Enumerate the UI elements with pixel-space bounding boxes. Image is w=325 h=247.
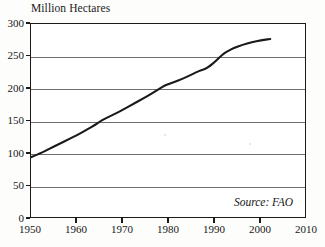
y-tick-label-200: 200 [0,83,24,94]
plot-area: Source: FAO [30,23,306,218]
y-tick-label-100: 100 [0,148,24,159]
data-line-irrigated-area [31,24,305,217]
x-tick-label-1990: 1990 [194,224,234,235]
y-tick-label-150: 150 [0,115,24,126]
y-tick-label-50: 50 [0,180,24,191]
x-tick-label-1970: 1970 [102,224,142,235]
x-tick-mark-2000 [259,218,260,223]
source-note: Source: FAO [234,196,293,208]
series-path-0 [31,39,270,157]
y-tick-label-250: 250 [0,50,24,61]
x-tick-label-1960: 1960 [56,224,96,235]
x-tick-label-1950: 1950 [10,224,50,235]
x-tick-mark-1990 [213,218,214,223]
x-tick-mark-1960 [75,218,76,223]
y-tick-label-0: 0 [0,213,24,224]
chart-figure: Million Hectares 050100150200250300 Sour… [0,0,325,247]
x-tick-label-2000: 2000 [240,224,280,235]
plot-inner [31,24,305,217]
x-tick-mark-1980 [167,218,168,223]
x-tick-label-2010: 2010 [286,224,325,235]
chart-axis-title: Million Hectares [31,2,110,14]
x-tick-label-1980: 1980 [148,224,188,235]
y-tick-label-300: 300 [0,18,24,29]
x-tick-mark-1970 [121,218,122,223]
